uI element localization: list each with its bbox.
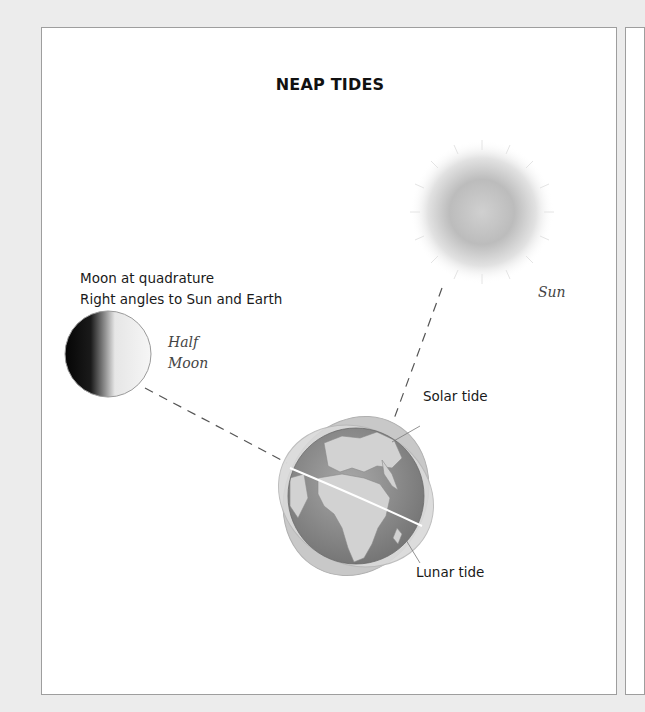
moon-earth-line — [145, 388, 287, 463]
sun-label: Sun — [538, 282, 566, 303]
sun-icon — [410, 140, 554, 284]
diagram-panel: NEAP TIDES Moon at quadrature Right angl… — [41, 27, 617, 695]
half-moon-label-line-1: Half — [168, 332, 208, 353]
neap-tides-illustration — [42, 28, 618, 696]
half-moon-icon — [65, 311, 151, 397]
lunar-tide-label: Lunar tide — [416, 564, 484, 580]
adjacent-panel-edge — [625, 27, 645, 695]
half-moon-label: Half Moon — [168, 332, 208, 374]
sun-earth-line — [387, 288, 442, 438]
half-moon-label-line-2: Moon — [168, 353, 208, 374]
solar-tide-label: Solar tide — [423, 388, 488, 404]
